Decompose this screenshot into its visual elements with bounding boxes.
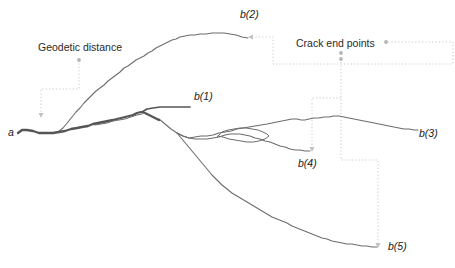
crack-branch-b4 [177, 133, 310, 151]
crack-diagram-figure: Geodetic distance Crack end points a b(1… [0, 0, 455, 268]
endpoint-label-b3: b(3) [419, 128, 438, 139]
crack-branch-b5 [177, 133, 377, 247]
crack-end-points-label: Crack end points [296, 38, 375, 49]
geodetic-distance-arrowhead [39, 113, 44, 118]
endpoint-label-b4: b(4) [298, 158, 317, 169]
crack-end-points-down-leader [341, 62, 378, 244]
b4-leader-line [312, 98, 341, 148]
crack-branch-b3 [159, 116, 418, 138]
endpoint-label-b2: b(2) [240, 9, 259, 20]
b2-arrowhead [248, 35, 253, 40]
endpoint-label-b1: b(1) [194, 91, 213, 102]
endpoint-label-b5: b(5) [388, 241, 407, 252]
crack-end-points-dot-lower [339, 57, 343, 61]
geodetic-distance-label: Geodetic distance [38, 42, 122, 53]
crack-traces [18, 33, 418, 247]
crack-end-points-right-leader [388, 42, 453, 64]
geodetic-distance-dot [77, 58, 81, 62]
geodetic-distance-leader-line [41, 60, 79, 114]
crack-branch-b1 [142, 107, 190, 112]
crack-end-points-dot-upper [339, 51, 343, 55]
crack-end-points-dot-right [384, 40, 388, 44]
annotation-leaders [41, 37, 453, 244]
origin-point-label: a [8, 127, 14, 138]
leader-arrowheads [39, 35, 381, 249]
